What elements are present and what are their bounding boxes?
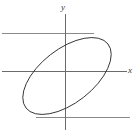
ellipse-tangent-figure: y x [0,0,138,136]
y-axis-label: y [61,3,65,12]
ellipse-curve [9,23,124,130]
x-axis-label: x [128,66,132,75]
figure-canvas [0,0,138,136]
